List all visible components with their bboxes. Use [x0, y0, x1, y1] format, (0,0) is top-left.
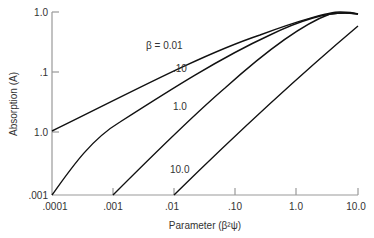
x-tick-label: .0001: [42, 201, 67, 212]
series-label: 10.0: [170, 164, 190, 175]
x-tick-label: .01: [165, 201, 179, 212]
x-tick-label: 1.0: [289, 201, 303, 212]
y-tick-label: .001: [29, 190, 49, 201]
x-tick-label: .001: [103, 201, 123, 212]
curve-beta-0.10: [52, 13, 358, 195]
series-label: β = 0.01: [146, 40, 183, 51]
series-label: 1.0: [173, 101, 187, 112]
y-tick-label: 1.0: [34, 7, 48, 18]
chart: 1.0 .1 1.0 .001 .0001 .001 .01 .10 1.0 1…: [0, 0, 374, 238]
x-tick-label: .10: [228, 201, 242, 212]
x-tick-label: 10.0: [346, 201, 366, 212]
y-tick-label: .1: [40, 67, 49, 78]
y-axis-label: Absorption (A): [8, 72, 19, 136]
series-label: .10: [173, 63, 187, 74]
curve-beta-10.0: [174, 26, 358, 195]
y-tick-label: 1.0: [34, 127, 48, 138]
x-axis-label: Parameter (β²ψ): [169, 220, 241, 231]
curve-beta-0.01: [52, 12, 358, 131]
